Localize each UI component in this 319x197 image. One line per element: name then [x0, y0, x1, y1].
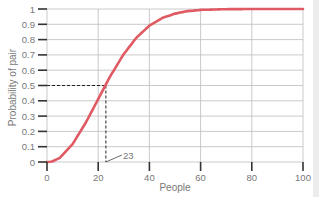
y-tick-label: 0.4 [22, 95, 35, 106]
x-tick-label: 40 [144, 172, 155, 183]
x-tick-label: 0 [44, 172, 49, 183]
birthday-probability-chart: 00.10.20.30.40.50.60.70.80.9102040608010… [0, 0, 319, 197]
x-axis-title: People [159, 182, 191, 193]
grid-lines [47, 9, 303, 162]
x-tick-label: 60 [195, 172, 206, 183]
y-tick-label: 0.7 [22, 49, 35, 60]
y-axis-title: Probability of pair [7, 48, 18, 126]
y-tick-label: 0.6 [22, 65, 35, 76]
y-tick-label: 0.8 [22, 34, 35, 45]
y-tick-label: 0.9 [22, 19, 35, 30]
x-tick-label: 80 [247, 172, 258, 183]
axis-labels: 00.10.20.30.40.50.60.70.80.9102040608010… [7, 4, 311, 194]
x-tick-label: 20 [93, 172, 104, 183]
callout-line [106, 155, 122, 162]
y-tick-label: 0.5 [22, 80, 35, 91]
y-tick-label: 0.2 [22, 126, 35, 137]
y-tick-label: 0 [30, 157, 35, 168]
y-tick-label: 0.3 [22, 111, 35, 122]
x-tick-label: 100 [295, 172, 311, 183]
y-tick-label: 1 [30, 4, 35, 15]
callout-label: 23 [123, 150, 134, 161]
y-tick-label: 0.1 [22, 141, 35, 152]
